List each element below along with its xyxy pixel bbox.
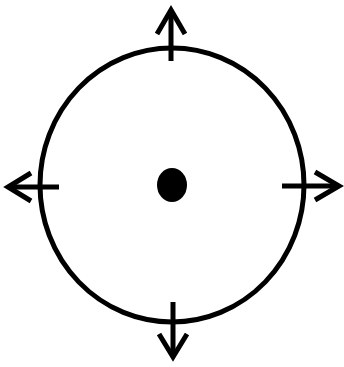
arrow-up-icon [157, 10, 185, 61]
center-dot [157, 168, 187, 202]
arrow-left-icon [8, 173, 59, 201]
arrow-down-icon [159, 302, 187, 357]
diagram-canvas [0, 0, 344, 367]
arrow-right-icon [282, 172, 339, 200]
